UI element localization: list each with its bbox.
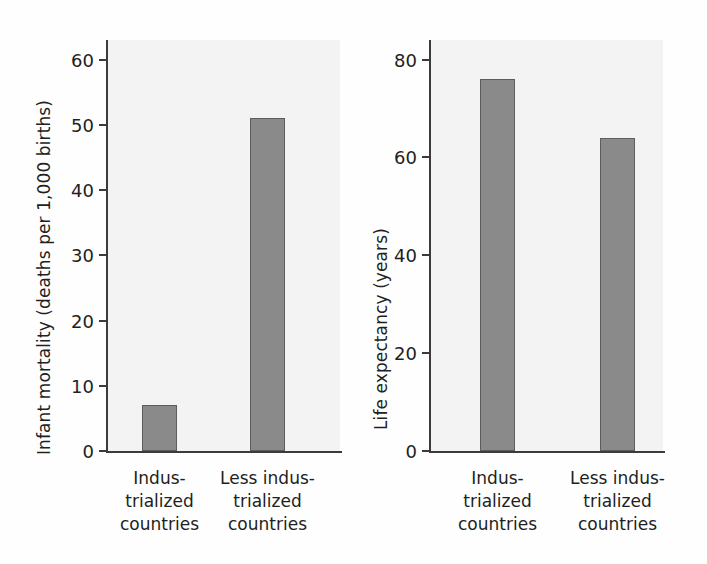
- x-axis-category-label: Less indus- trialized countries: [543, 467, 693, 536]
- y-axis-tick-label: 20: [46, 310, 94, 331]
- y-axis-tick: [99, 59, 106, 61]
- y-axis-tick: [99, 189, 106, 191]
- y-axis-tick-label: 40: [369, 245, 417, 266]
- y-axis-tick: [99, 320, 106, 322]
- y-axis-tick-label: 60: [46, 49, 94, 70]
- y-axis-tick: [99, 450, 106, 452]
- bar: [480, 79, 515, 451]
- bar: [600, 138, 635, 451]
- y-axis-tick: [422, 59, 429, 61]
- y-axis-tick: [99, 385, 106, 387]
- y-axis-line: [106, 40, 108, 453]
- y-axis-label: Infant mortality (deaths per 1,000 birth…: [34, 100, 54, 455]
- bar: [250, 118, 285, 451]
- y-axis-tick: [99, 254, 106, 256]
- x-axis-line: [429, 451, 665, 453]
- y-axis-tick: [422, 450, 429, 452]
- y-axis-tick-label: 0: [369, 441, 417, 462]
- y-axis-tick-label: 0: [46, 441, 94, 462]
- chart-life-expectancy: Life expectancy (years) 020406080 Indus-…: [353, 0, 706, 564]
- y-axis-tick: [422, 156, 429, 158]
- y-axis-tick-label: 50: [46, 114, 94, 135]
- y-axis-tick-label: 30: [46, 245, 94, 266]
- y-axis-tick-label: 80: [369, 49, 417, 70]
- x-axis-category-label: Less indus- trialized countries: [193, 467, 343, 536]
- x-axis-line: [106, 451, 342, 453]
- chart-infant-mortality: Infant mortality (deaths per 1,000 birth…: [0, 0, 353, 564]
- y-axis-tick-label: 40: [46, 180, 94, 201]
- y-axis-tick: [99, 124, 106, 126]
- y-axis-line: [429, 40, 431, 453]
- figure-page: Infant mortality (deaths per 1,000 birth…: [0, 0, 707, 564]
- y-axis-tick-label: 20: [369, 343, 417, 364]
- bar: [142, 405, 177, 451]
- y-axis-tick-label: 60: [369, 147, 417, 168]
- y-axis-tick: [422, 352, 429, 354]
- y-axis-tick-label: 10: [46, 375, 94, 396]
- plot-area: [108, 40, 340, 451]
- y-axis-tick: [422, 254, 429, 256]
